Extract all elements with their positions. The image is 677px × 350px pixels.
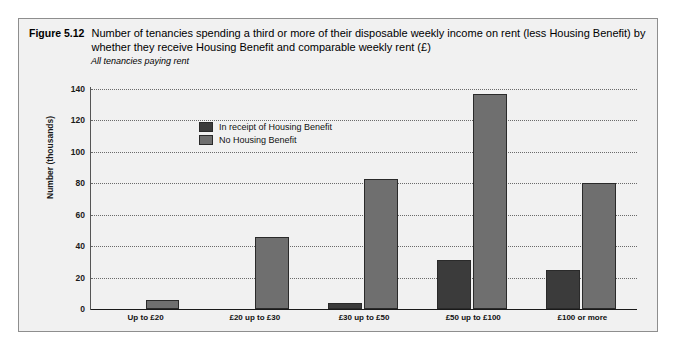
bars-layer	[91, 89, 637, 309]
bar[interactable]	[546, 270, 580, 309]
x-axis-tick-label: Up to £20	[91, 313, 200, 322]
x-axis-tick-label: £20 up to £30	[200, 313, 309, 322]
x-axis-tick-label: £100 or more	[528, 313, 637, 322]
bar[interactable]	[364, 179, 398, 309]
bar-group	[419, 89, 528, 309]
chart-legend: In receipt of Housing BenefitNo Housing …	[199, 122, 332, 148]
bar[interactable]	[437, 260, 471, 309]
figure-header: Figure 5.12 Number of tenancies spending…	[29, 27, 647, 66]
legend-item-label: No Housing Benefit	[219, 135, 297, 145]
x-axis-line	[91, 309, 637, 310]
legend-item-label: In receipt of Housing Benefit	[219, 122, 332, 132]
y-axis-tick-label: 20	[76, 273, 85, 283]
x-axis-tick-labels: Up to £20£20 up to £30£30 up to £50£50 u…	[91, 313, 637, 322]
y-axis-tick-label: 120	[71, 115, 85, 125]
x-axis-tick-label: £30 up to £50	[309, 313, 418, 322]
y-axis-tick-label: 60	[76, 210, 85, 220]
legend-swatch-icon	[199, 122, 213, 132]
bar[interactable]	[328, 303, 362, 309]
legend-item[interactable]: In receipt of Housing Benefit	[199, 122, 332, 132]
y-axis-tick-label: 80	[76, 178, 85, 188]
x-axis-tick-label: £50 up to £100	[419, 313, 528, 322]
figure-subtitle: All tenancies paying rent	[91, 56, 647, 66]
figure-panel: Figure 5.12 Number of tenancies spending…	[18, 18, 658, 332]
bar[interactable]	[146, 300, 180, 309]
bar[interactable]	[255, 237, 289, 309]
bar[interactable]	[582, 183, 616, 309]
figure-title: Number of tenancies spending a third or …	[91, 27, 647, 54]
bar-group	[528, 89, 637, 309]
legend-item[interactable]: No Housing Benefit	[199, 135, 332, 145]
figure-number: Figure 5.12	[29, 27, 84, 39]
y-axis-tick-label: 40	[76, 241, 85, 251]
y-axis-tick-label: 140	[71, 84, 85, 94]
figure-title-row: Figure 5.12 Number of tenancies spending…	[29, 27, 647, 54]
bar-group	[91, 89, 200, 309]
y-axis-tick-label: 100	[71, 147, 85, 157]
legend-swatch-icon	[199, 135, 213, 145]
bar[interactable]	[473, 94, 507, 309]
plot-area: 020406080100120140	[91, 89, 637, 309]
y-axis-tick-label: 0	[80, 304, 85, 314]
y-axis-label: Number (thousands)	[45, 116, 55, 199]
